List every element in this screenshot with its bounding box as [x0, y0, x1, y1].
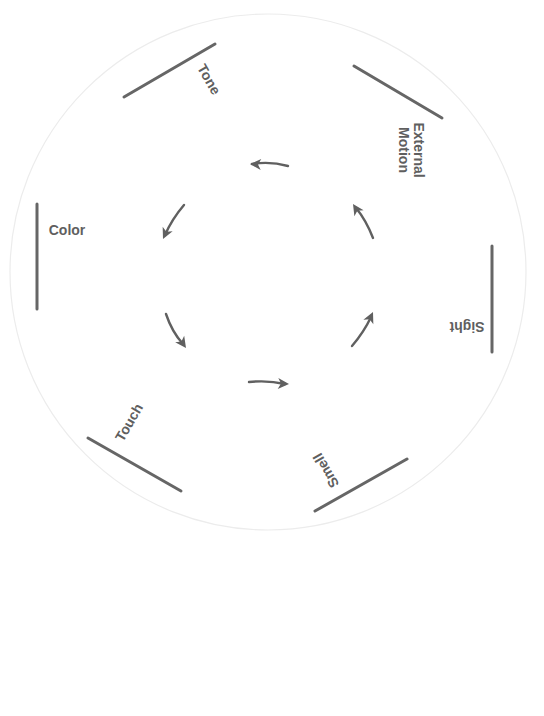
spoke-sight: Sight: [449, 246, 492, 352]
sensory-wheel-diagram: ToneExternalMotionSightSmellTouchColor: [0, 0, 544, 716]
spoke-color: Color: [37, 204, 86, 309]
spoke-label-tone: Tone: [194, 61, 224, 97]
cycle-arrows-group: [158, 159, 378, 390]
spokes-group: ToneExternalMotionSightSmellTouchColor: [37, 44, 492, 511]
spoke-touch: Touch: [88, 401, 181, 491]
spoke-line-external-motion: [354, 66, 442, 118]
arrow-lower-right-icon: [352, 310, 378, 346]
spoke-label-smell: Smell: [310, 450, 343, 490]
outer-ring: [10, 14, 526, 530]
arrow-top-icon: [250, 159, 288, 171]
arrow-lower-left-icon: [166, 314, 191, 351]
arrow-upper-right-icon: [348, 201, 373, 238]
spoke-external-motion: ExternalMotion: [354, 66, 442, 178]
spoke-tone: Tone: [124, 44, 224, 98]
spoke-label-touch: Touch: [112, 401, 146, 444]
spoke-smell: Smell: [310, 450, 407, 511]
arrow-upper-left-icon: [158, 205, 184, 241]
spoke-label-color: Color: [49, 222, 86, 238]
spoke-label-external-motion: ExternalMotion: [396, 122, 427, 177]
spoke-line-touch: [88, 438, 181, 491]
spoke-label-sight: Sight: [449, 319, 484, 335]
arrow-bottom-icon: [249, 378, 289, 390]
